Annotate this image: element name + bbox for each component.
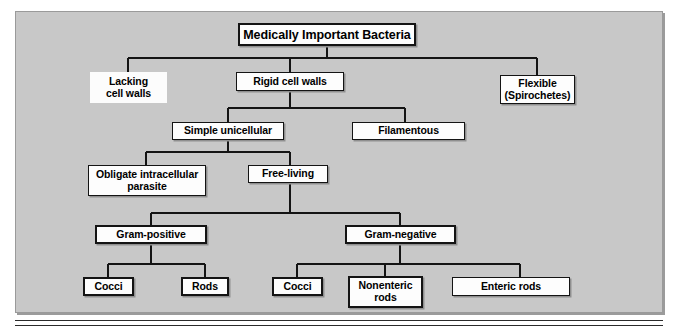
node-gram-negative[interactable]: Gram-negative bbox=[345, 225, 456, 244]
figure-page: Medically Important Bacteria Lacking cel… bbox=[0, 0, 681, 330]
node-gram-negative-enteric-rods[interactable]: Enteric rods bbox=[452, 277, 570, 296]
node-label: Medically Important Bacteria bbox=[243, 28, 410, 42]
node-gram-positive-cocci[interactable]: Cocci bbox=[83, 277, 134, 296]
node-free-living[interactable]: Free-living bbox=[248, 165, 328, 183]
node-label-line-2: rods bbox=[374, 292, 396, 304]
footer-rule-bottom bbox=[15, 325, 663, 326]
node-label: Gram-negative bbox=[364, 229, 436, 241]
node-label-line-1: Flexible bbox=[518, 78, 556, 90]
node-gram-positive[interactable]: Gram-positive bbox=[95, 225, 207, 244]
node-label: Cocci bbox=[283, 281, 311, 293]
node-label: Rods bbox=[192, 281, 218, 293]
node-gram-negative-cocci[interactable]: Cocci bbox=[272, 277, 323, 296]
node-simple-unicellular[interactable]: Simple unicellular bbox=[172, 122, 284, 140]
node-label: Gram-positive bbox=[116, 229, 185, 241]
node-label-line-2: (Spirochetes) bbox=[505, 90, 571, 102]
node-obligate-intracellular-parasite[interactable]: Obligate intracellular parasite bbox=[88, 165, 206, 196]
node-label: Enteric rods bbox=[481, 281, 541, 293]
node-label-line-2: cell walls bbox=[106, 88, 151, 100]
node-label: Cocci bbox=[94, 281, 122, 293]
node-label-line-1: Lacking bbox=[109, 76, 148, 88]
footer-rule-top bbox=[15, 320, 663, 321]
node-flexible-spirochetes[interactable]: Flexible (Spirochetes) bbox=[500, 75, 575, 104]
node-label: Rigid cell walls bbox=[253, 76, 327, 88]
node-rigid-cell-walls[interactable]: Rigid cell walls bbox=[236, 72, 344, 91]
node-lacking-cell-walls[interactable]: Lacking cell walls bbox=[90, 72, 167, 103]
node-label: Simple unicellular bbox=[184, 125, 272, 137]
node-gram-negative-nonenteric-rods[interactable]: Nonenteric rods bbox=[348, 276, 423, 308]
node-medically-important-bacteria[interactable]: Medically Important Bacteria bbox=[238, 23, 416, 46]
node-label-line-1: Obligate intracellular bbox=[96, 169, 198, 181]
node-label: Free-living bbox=[262, 168, 314, 180]
node-label: Filamentous bbox=[378, 125, 439, 137]
node-filamentous[interactable]: Filamentous bbox=[352, 122, 465, 140]
node-label-line-2: parasite bbox=[127, 181, 166, 193]
node-gram-positive-rods[interactable]: Rods bbox=[181, 277, 229, 296]
